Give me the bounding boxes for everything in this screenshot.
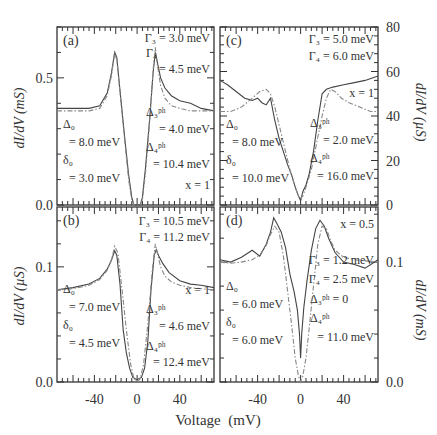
fit-parameter-right: Γ₃ = 5.0 meV bbox=[309, 32, 375, 46]
y-tick-label: 0.0 bbox=[36, 198, 54, 213]
y-tick-label: 60 bbox=[386, 65, 400, 80]
fit-parameter-right: = 4.0 meV bbox=[159, 122, 210, 136]
fit-parameter-right: = 4.6 meV bbox=[159, 319, 210, 333]
fit-parameter-right: Δ₃ᵖʰ bbox=[310, 116, 330, 130]
fit-parameter-left: = 3.0 meV bbox=[69, 171, 120, 185]
fit-parameter-right: x = 1 bbox=[185, 283, 210, 297]
fit-parameter-right: Γ₄ bbox=[146, 46, 157, 60]
panel-d: 0.00.1-40040(d)Δ₀= 6.0 meVδ₀= 6.0 meVx =… bbox=[220, 207, 404, 407]
fit-parameter-left: = 10.0 meV bbox=[232, 171, 289, 185]
fit-parameter-left: = 6.0 meV bbox=[232, 333, 283, 347]
fit-parameter-right: Γ₃ = 3.0 meV bbox=[145, 31, 211, 45]
fit-parameter-right: = 2.0 meV bbox=[323, 133, 374, 147]
left-ylabel-top: dI/dV (mS) bbox=[12, 87, 28, 148]
fit-parameter-right: Γ₄ = 6.0 meV bbox=[309, 49, 375, 63]
fit-parameter-right: Δ₃ᵖʰ bbox=[146, 105, 166, 119]
fit-parameter-right: Δ₄ᵖʰ bbox=[146, 140, 166, 154]
x-axis-label: Voltage (mV) bbox=[175, 412, 261, 429]
fit-parameter-left: δ₀ bbox=[63, 318, 73, 332]
fit-parameter-right: Γ₃ = 1.2 meV bbox=[309, 253, 375, 267]
fit-parameter-right: Γ₄ = 11.2 meV bbox=[139, 230, 210, 244]
fit-parameter-left: δ₀ bbox=[226, 153, 236, 167]
fit-parameter-right: Δ₃ᵖʰ bbox=[146, 302, 166, 316]
plot-frame bbox=[220, 207, 378, 382]
x-tick-label: -40 bbox=[85, 392, 104, 407]
x-tick-label: 40 bbox=[337, 392, 351, 407]
fit-parameter-left: Δ₀ bbox=[63, 282, 75, 296]
y-tick-label: 0.1 bbox=[36, 260, 54, 275]
x-tick-label: -40 bbox=[248, 392, 267, 407]
left-ylabel-bottom: dI/dV (µS) bbox=[12, 266, 28, 325]
fit-parameter-right: = 16.0 meV bbox=[317, 169, 374, 183]
y-tick-label: 0.0 bbox=[36, 375, 54, 390]
right-ylabel-bottom: dI/dV (mS) bbox=[412, 280, 428, 341]
panel-letter: (a) bbox=[63, 33, 79, 49]
x-tick-label: 40 bbox=[173, 392, 187, 407]
y-tick-label: 20 bbox=[386, 154, 400, 169]
fit-parameter-right: x = 0.5 bbox=[340, 217, 374, 231]
fit-parameter-left: δ₀ bbox=[226, 315, 236, 329]
fit-parameter-left: δ₀ bbox=[63, 153, 73, 167]
figure: 0.00.5(a)Δ₀= 8.0 meVδ₀= 3.0 meVΓ₃ = 3.0 … bbox=[0, 0, 437, 435]
y-tick-label: 0.1 bbox=[386, 255, 404, 270]
fit-parameter-right: = 12.4 meV bbox=[153, 355, 210, 369]
right-ylabel-top: dI/dV (µS) bbox=[412, 83, 428, 142]
y-tick-label: 0 bbox=[386, 198, 393, 213]
fit-parameter-right: = 4.5 meV bbox=[159, 62, 210, 76]
fit-parameter-left: = 8.0 meV bbox=[232, 135, 283, 149]
panel-letter: (b) bbox=[63, 213, 80, 229]
fit-parameter-right: Γ₃ = 10.5 meV bbox=[139, 214, 211, 228]
y-tick-label: 80 bbox=[386, 20, 400, 35]
panel-c: 020406080(c)Δ₀= 8.0 meVδ₀= 10.0 meVΓ₃ = … bbox=[220, 20, 400, 213]
panel-letter: (d) bbox=[226, 213, 243, 229]
fit-parameter-right: Γ₄ = 2.5 meV bbox=[309, 272, 375, 286]
fit-parameter-right: = 11.0 meV bbox=[317, 330, 374, 344]
x-tick-label: 0 bbox=[134, 392, 141, 407]
fit-parameter-right: = 10.4 meV bbox=[153, 157, 210, 171]
y-tick-label: 0.5 bbox=[36, 71, 54, 86]
fit-parameter-left: = 4.5 meV bbox=[69, 336, 120, 350]
fit-parameter-right: Δ₄ᵖʰ bbox=[310, 151, 330, 165]
x-tick-label: 0 bbox=[297, 392, 304, 407]
fit-parameter-left: = 6.0 meV bbox=[232, 297, 283, 311]
y-tick-label: 0.0 bbox=[386, 375, 404, 390]
panel-a: 0.00.5(a)Δ₀= 8.0 meVδ₀= 3.0 meVΓ₃ = 3.0 … bbox=[36, 27, 215, 213]
fit-parameter-right: x = 1 bbox=[185, 178, 210, 192]
panel-b: 0.00.1-40040(b)Δ₀= 7.0 meVδ₀= 4.5 meVΓ₃ … bbox=[36, 207, 215, 407]
panel-letter: (c) bbox=[226, 33, 242, 49]
fit-parameter-left: = 7.0 meV bbox=[69, 300, 120, 314]
fit-parameter-left: Δ₀ bbox=[226, 279, 238, 293]
y-tick-label: 40 bbox=[386, 109, 400, 124]
fit-parameter-right: Δ₄ᵖʰ bbox=[146, 339, 166, 353]
fit-parameter-left: = 8.0 meV bbox=[69, 135, 120, 149]
fit-parameter-right: Δ₄ᵖʰ bbox=[310, 311, 330, 325]
fit-parameter-right: x = 1 bbox=[349, 86, 374, 100]
fit-parameter-right: Δ₃ᵖʰ = 0 bbox=[310, 292, 348, 306]
fit-parameter-left: Δ₀ bbox=[226, 117, 238, 131]
fit-parameter-left: Δ₀ bbox=[63, 117, 75, 131]
